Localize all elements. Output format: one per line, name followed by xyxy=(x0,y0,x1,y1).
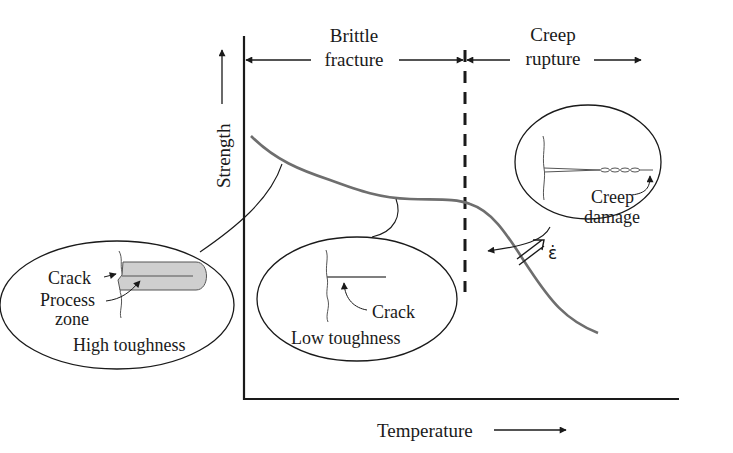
region-brittle-fracture: Brittle fracture xyxy=(246,25,463,70)
creep-label-2: damage xyxy=(584,207,640,227)
region-creep-line2: rupture xyxy=(526,48,581,69)
y-axis-label: Strength xyxy=(213,123,234,188)
creep-label-1: Creep xyxy=(591,187,634,207)
callout-creep-damage: Creep damage xyxy=(515,105,661,227)
double-arrow-icon xyxy=(517,240,544,265)
x-axis-label: Temperature xyxy=(377,420,473,441)
leader-line-creep xyxy=(488,227,550,251)
crack-label: Crack xyxy=(48,268,91,288)
y-axis-label-group: Strength xyxy=(213,50,234,188)
callout-ellipse xyxy=(515,105,661,219)
callout-low-toughness: Crack Low toughness xyxy=(257,237,457,361)
crack-label: Crack xyxy=(372,302,415,322)
callout-high-toughness: Crack Process zone High toughness xyxy=(0,241,234,369)
high-toughness-title: High toughness xyxy=(73,335,186,355)
region-brittle-line2: fracture xyxy=(324,49,383,70)
strength-temperature-diagram: Strength Temperature Brittle fracture Cr… xyxy=(0,0,733,453)
process-zone-label-1: Process xyxy=(40,290,95,310)
process-zone-label-2: zone xyxy=(55,309,89,329)
x-axis-label-group: Temperature xyxy=(377,420,566,441)
region-creep-rupture: Creep rupture xyxy=(467,24,641,69)
strain-rate-symbol: ε̇ xyxy=(548,243,557,263)
region-creep-line1: Creep xyxy=(530,24,575,45)
leader-line-low-toughness xyxy=(372,199,398,237)
region-brittle-line1: Brittle xyxy=(330,25,379,46)
low-toughness-title: Low toughness xyxy=(291,328,401,348)
strain-rate-indicator: ε̇ xyxy=(517,240,557,265)
